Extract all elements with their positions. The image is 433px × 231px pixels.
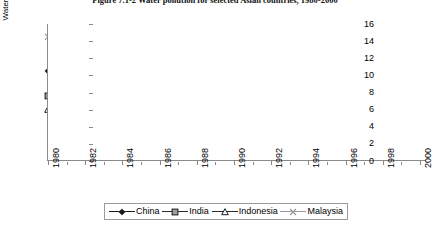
legend-label: China <box>136 207 160 216</box>
y-tick-label: 0 <box>358 157 374 166</box>
y-tick-mark <box>89 75 93 76</box>
x-tick-mark <box>290 162 291 165</box>
figure-title: Figure 7.1-2 Water pollution for selecte… <box>0 0 430 5</box>
y-tick-mark <box>89 93 93 94</box>
y-tick-label: 16 <box>358 20 374 29</box>
y-tick-mark <box>89 144 93 145</box>
y-tick-label: 8 <box>358 88 374 97</box>
x-tick-label: 1990 <box>238 148 247 168</box>
x-tick-label: 1992 <box>275 148 284 168</box>
chart-plot: 0246810121416 19801982198419861988199019… <box>47 24 426 161</box>
legend-item-indonesia[interactable]: Indonesia <box>212 206 278 217</box>
y-tick-mark <box>89 41 93 42</box>
y-tick-label: 6 <box>358 105 374 114</box>
x-tick-mark <box>67 162 68 165</box>
x-tick-mark <box>85 161 86 165</box>
x-tick-mark <box>234 161 235 165</box>
y-tick-mark <box>89 110 93 111</box>
x-tick-mark <box>197 161 198 165</box>
x-tick-mark <box>383 161 384 165</box>
data-point <box>290 209 296 215</box>
x-tick-label: 1984 <box>126 148 135 168</box>
y-tick-label: 14 <box>358 37 374 46</box>
x-tick-label: 1994 <box>312 148 321 168</box>
x-tick-mark <box>215 162 216 165</box>
x-tick-mark <box>420 161 421 165</box>
x-tick-label: 2000 <box>424 148 433 168</box>
x-tick-mark <box>364 162 365 165</box>
legend-item-malaysia[interactable]: Malaysia <box>280 206 343 217</box>
legend-swatch-open-triangle-icon <box>212 206 238 217</box>
y-axis-title: Water pollution (% BOD emissions) <box>0 0 12 30</box>
y-tick-mark <box>89 127 93 128</box>
legend-label: Indonesia <box>239 207 278 216</box>
y-tick-label: 12 <box>358 54 374 63</box>
legend-label: India <box>189 207 209 216</box>
y-tick-mark <box>89 58 93 59</box>
x-tick-mark <box>104 162 105 165</box>
x-tick-mark <box>122 161 123 165</box>
y-tick-label: 10 <box>358 71 374 80</box>
y-tick-mark <box>89 24 93 25</box>
legend-item-india[interactable]: India <box>162 206 209 217</box>
x-tick-mark <box>401 162 402 165</box>
x-tick-mark <box>48 161 49 165</box>
legend-item-china[interactable]: China <box>109 206 160 217</box>
chart-legend: ChinaIndiaIndonesiaMalaysia <box>104 203 348 220</box>
y-tick-label: 4 <box>358 122 374 131</box>
x-tick-label: 1998 <box>387 148 396 168</box>
x-tick-label: 1982 <box>89 148 98 168</box>
legend-swatch-filled-diamond-icon <box>109 206 135 217</box>
x-tick-mark <box>327 162 328 165</box>
data-point <box>221 208 228 214</box>
x-tick-mark <box>271 161 272 165</box>
x-tick-label: 1986 <box>164 148 173 168</box>
data-point <box>119 208 125 214</box>
x-tick-mark <box>160 161 161 165</box>
y-axis-line <box>47 24 48 161</box>
y-tick-label: 2 <box>358 139 374 148</box>
x-tick-mark <box>178 162 179 165</box>
x-tick-label: 1996 <box>350 148 359 168</box>
x-tick-label: 1980 <box>52 148 61 168</box>
x-tick-label: 1988 <box>201 148 210 168</box>
x-tick-mark <box>253 162 254 165</box>
legend-label: Malaysia <box>307 207 343 216</box>
x-tick-mark <box>141 162 142 165</box>
legend-swatch-cross-icon <box>280 206 306 217</box>
data-point <box>172 209 178 215</box>
x-tick-mark <box>308 161 309 165</box>
x-tick-mark <box>346 161 347 165</box>
legend-swatch-filled-square-icon <box>162 206 188 217</box>
